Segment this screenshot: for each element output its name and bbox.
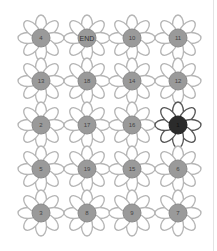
flower-end[interactable]: END [63,14,111,62]
flower-icon [17,101,65,149]
flower-icon [108,14,156,62]
flower-tile[interactable]: 14 [108,57,156,105]
flower-tile[interactable]: 4 [17,14,65,62]
flower-tile[interactable]: 2 [17,101,65,149]
flower-icon [108,145,156,193]
flower-icon [108,101,156,149]
flower-start[interactable]: 1 [154,101,202,149]
flower-icon [154,57,202,105]
flower-icon [63,101,111,149]
flower-icon [63,189,111,237]
flower-tile[interactable]: 11 [154,14,202,62]
flower-tile[interactable]: 8 [63,189,111,237]
flower-icon [154,145,202,193]
flower-grid: 4END1011131814122171615191563897 [0,0,217,251]
flower-tile[interactable]: 9 [108,189,156,237]
flower-icon [17,145,65,193]
flower-tile[interactable]: 18 [63,57,111,105]
flower-icon [108,57,156,105]
flower-tile[interactable]: 19 [63,145,111,193]
flower-tile[interactable]: 10 [108,14,156,62]
flower-tile[interactable]: 12 [154,57,202,105]
flower-tile[interactable]: 15 [108,145,156,193]
flower-tile[interactable]: 5 [17,145,65,193]
flower-icon [63,57,111,105]
flower-icon [154,189,202,237]
flower-tile[interactable]: 17 [63,101,111,149]
flower-tile[interactable]: 16 [108,101,156,149]
flower-icon [17,189,65,237]
flower-icon [17,14,65,62]
flower-tile[interactable]: 3 [17,189,65,237]
flower-icon [108,189,156,237]
flower-icon [63,145,111,193]
flower-icon [63,14,111,62]
flower-tile[interactable]: 7 [154,189,202,237]
flower-icon [154,101,202,149]
flower-icon [17,57,65,105]
flower-tile[interactable]: 13 [17,57,65,105]
flower-icon [154,14,202,62]
flower-tile[interactable]: 6 [154,145,202,193]
